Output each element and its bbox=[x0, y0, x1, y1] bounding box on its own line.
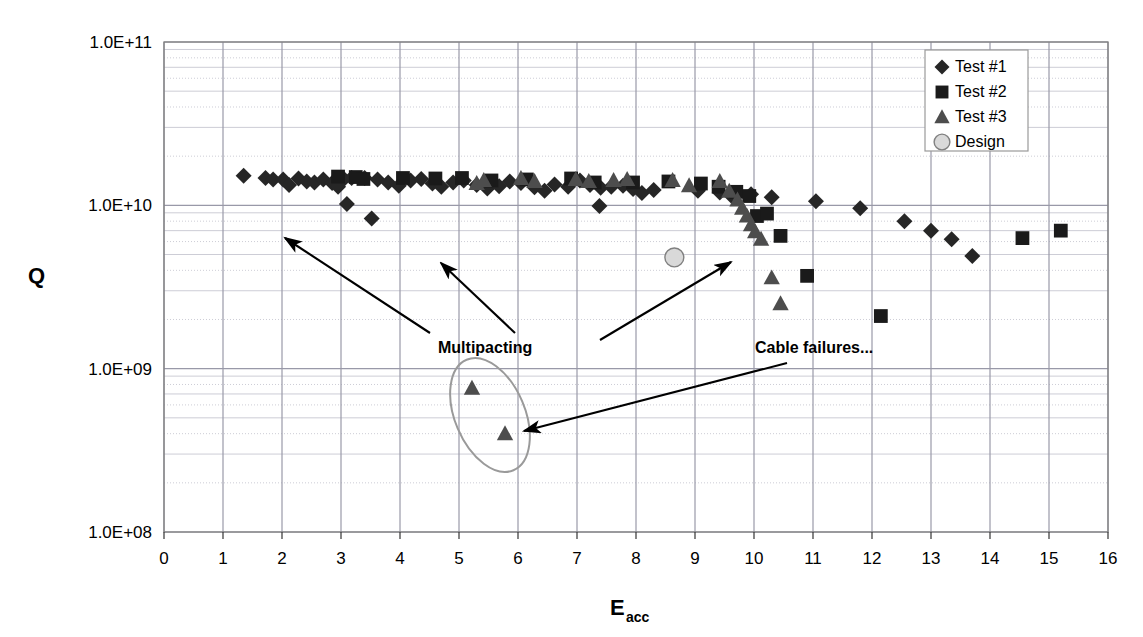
x-tick-label: 12 bbox=[863, 549, 882, 568]
x-axis-title: E bbox=[610, 595, 625, 620]
x-tick-label: 13 bbox=[922, 549, 941, 568]
legend-item-label: Test #3 bbox=[955, 108, 1007, 125]
chart-legend[interactable]: Test #1Test #2Test #3Design bbox=[925, 50, 1028, 151]
data-point-square bbox=[800, 269, 814, 283]
legend-marker-circle-icon bbox=[934, 134, 950, 150]
data-point-square bbox=[396, 171, 410, 185]
y-tick-label: 1.0E+10 bbox=[88, 196, 152, 215]
data-point-square bbox=[694, 177, 708, 191]
y-axis-tick-labels: 1.0E+081.0E+091.0E+101.0E+11 bbox=[88, 33, 152, 542]
data-point-square bbox=[357, 172, 371, 186]
x-tick-label: 7 bbox=[572, 549, 581, 568]
x-tick-label: 5 bbox=[454, 549, 463, 568]
x-tick-label: 3 bbox=[336, 549, 345, 568]
data-point-square bbox=[760, 207, 774, 221]
data-point-square bbox=[429, 172, 443, 186]
legend-item-test-2[interactable]: Test #2 bbox=[936, 83, 1007, 100]
data-point-square bbox=[455, 171, 469, 185]
x-tick-label: 11 bbox=[804, 549, 822, 568]
legend-item-label: Test #1 bbox=[955, 58, 1007, 75]
legend-marker-square-icon bbox=[936, 86, 949, 99]
annotation-multipacting: Multipacting bbox=[438, 339, 532, 356]
x-tick-label: 8 bbox=[631, 549, 640, 568]
y-tick-label: 1.0E+11 bbox=[89, 33, 152, 52]
y-tick-label: 1.0E+09 bbox=[88, 360, 152, 379]
series-design bbox=[665, 248, 684, 267]
x-tick-label: 6 bbox=[513, 549, 522, 568]
data-point-square bbox=[874, 309, 888, 323]
x-tick-label: 10 bbox=[745, 549, 764, 568]
x-axis-tick-labels: 012345678910111213141516 bbox=[159, 549, 1117, 568]
data-point-circle bbox=[665, 248, 684, 267]
x-tick-label: 16 bbox=[1099, 549, 1118, 568]
x-tick-label: 9 bbox=[690, 549, 699, 568]
data-point-square bbox=[1054, 224, 1068, 238]
x-axis-ticks bbox=[164, 532, 1108, 539]
legend-item-design[interactable]: Design bbox=[934, 133, 1005, 150]
legend-item-label: Design bbox=[955, 133, 1005, 150]
y-tick-label: 1.0E+08 bbox=[88, 523, 152, 542]
data-point-square bbox=[1016, 231, 1030, 245]
x-tick-label: 2 bbox=[277, 549, 286, 568]
annotation-cable-failures: Cable failures... bbox=[755, 339, 873, 356]
x-tick-label: 14 bbox=[981, 549, 1000, 568]
x-tick-label: 0 bbox=[159, 549, 168, 568]
chart-page: 1.0E+081.0E+091.0E+101.0E+11 01234567891… bbox=[0, 0, 1143, 637]
x-axis-title-subscript: acc bbox=[626, 609, 650, 625]
y-axis-title: Q bbox=[28, 263, 45, 288]
data-point-square bbox=[774, 229, 788, 243]
q-vs-eacc-scatter-chart: 1.0E+081.0E+091.0E+101.0E+11 01234567891… bbox=[0, 0, 1143, 637]
x-tick-label: 1 bbox=[218, 549, 227, 568]
x-tick-label: 15 bbox=[1040, 549, 1059, 568]
data-point-square bbox=[331, 170, 345, 184]
data-point-square bbox=[742, 189, 756, 203]
x-tick-label: 4 bbox=[395, 549, 404, 568]
legend-item-label: Test #2 bbox=[955, 83, 1007, 100]
